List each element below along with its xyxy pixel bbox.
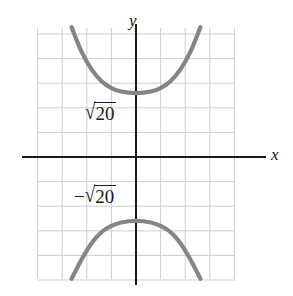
coordinate-plane	[0, 0, 293, 296]
y-axis-label: y	[129, 12, 137, 29]
negative-vertex-label: −√20	[74, 185, 116, 206]
positive-vertex-label: √20	[85, 102, 116, 123]
radical-sign-icon: √	[85, 183, 95, 205]
radical-sign-icon: √	[85, 100, 95, 122]
hyperbola-figure: y x √20 −√20	[0, 0, 293, 296]
minus-sign: −	[74, 186, 85, 207]
radical-expression: √20	[85, 102, 116, 123]
radicand-value: 20	[94, 185, 116, 206]
axes	[22, 24, 266, 285]
radicand-value: 20	[94, 102, 116, 123]
x-axis-label: x	[271, 146, 279, 163]
radical-expression: √20	[85, 185, 116, 206]
